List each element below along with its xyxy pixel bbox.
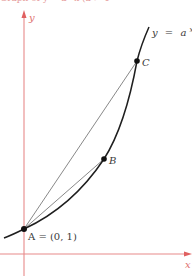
curve-label-exponent: x <box>190 26 192 34</box>
point-b-dot-icon <box>101 156 107 162</box>
x-axis-arrow-icon <box>184 252 192 257</box>
x-axis: x <box>0 252 192 271</box>
y-axis-label: y <box>28 12 35 23</box>
exponential-curve <box>4 27 149 238</box>
curve-label-y: y <box>151 27 158 38</box>
point-a-label: A = (0, 1) <box>27 231 77 242</box>
curve-label: y = a x <box>151 26 192 38</box>
secant-lines <box>24 61 137 229</box>
secant-a-c <box>24 61 137 229</box>
curve-label-base: a <box>180 27 186 38</box>
point-c-label: C <box>142 57 150 68</box>
point-b-label: B <box>108 155 116 166</box>
point-a-dot-icon <box>21 226 27 232</box>
point-b: B <box>101 155 116 166</box>
point-c-dot-icon <box>134 58 140 64</box>
curve-label-eq: = <box>165 27 173 38</box>
x-axis-label: x <box>185 259 191 270</box>
y-axis-arrow-icon <box>22 10 27 18</box>
point-a: A = (0, 1) <box>21 226 77 242</box>
exponential-graph: y x y = a x A = (0, 1) B C <box>0 0 192 276</box>
